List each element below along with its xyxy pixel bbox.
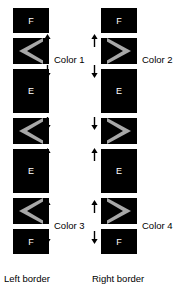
block-label: F	[101, 16, 137, 25]
chevron-right-icon	[101, 38, 137, 64]
color-label-4: Color 4	[142, 221, 173, 231]
arrow-down-icon-right-1	[90, 65, 99, 78]
arrow-down-icon-right-3	[90, 231, 99, 244]
block-right-0-solid: F	[101, 8, 137, 33]
arrow-down-icon-left-2	[43, 117, 52, 130]
block-right-4-solid: E	[101, 149, 137, 193]
color-label-1: Color 1	[54, 55, 85, 65]
block-right-6-solid: F	[101, 229, 137, 254]
border-stacking-diagram: F E E	[0, 0, 176, 289]
arrow-down-icon-right-2	[90, 117, 99, 130]
chevron-right-icon	[101, 198, 137, 224]
color-label-2: Color 2	[142, 55, 173, 65]
arrow-down-icon-left-3	[43, 231, 52, 244]
block-label: F	[101, 237, 137, 246]
arrow-up-icon-right-1	[90, 34, 99, 47]
block-label: F	[13, 16, 49, 25]
arrow-down-icon-left-1	[43, 65, 52, 78]
block-right-3-chevron	[101, 118, 137, 144]
block-label: E	[13, 167, 49, 176]
caption-left-border: Left border	[4, 274, 50, 284]
arrow-up-icon-left-2	[43, 148, 52, 161]
chevron-right-icon	[101, 118, 137, 144]
block-label: E	[13, 87, 49, 96]
right-border-column: F E E	[101, 8, 137, 254]
block-label: E	[101, 167, 137, 176]
block-label: E	[101, 87, 137, 96]
block-right-5-chevron	[101, 198, 137, 224]
arrow-up-icon-right-2	[90, 148, 99, 161]
arrow-up-icon-right-3	[90, 200, 99, 213]
caption-right-border: Right border	[92, 274, 144, 284]
arrow-up-icon-left-3	[43, 200, 52, 213]
block-right-1-chevron	[101, 38, 137, 64]
block-left-0-solid: F	[13, 8, 49, 33]
color-label-3: Color 3	[54, 221, 85, 231]
arrow-up-icon-left-1	[43, 34, 52, 47]
block-right-2-solid: E	[101, 69, 137, 113]
